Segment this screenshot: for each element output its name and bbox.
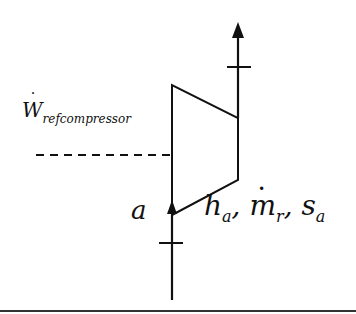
- inlet-arrow-icon: [167, 200, 177, 214]
- separator: ,: [232, 189, 241, 222]
- enthalpy-subscript: a: [222, 207, 232, 226]
- mass-flow-subscript: r: [276, 207, 284, 226]
- entropy-symbol: s: [301, 189, 315, 222]
- work-subscript: refcompressor: [43, 112, 131, 126]
- enthalpy-symbol: h: [204, 189, 222, 222]
- dot-accent: ˙: [29, 90, 37, 109]
- mass-flow-symbol: m: [249, 189, 276, 222]
- state-label: a: [131, 195, 147, 225]
- state-properties: ha, mr, sa: [204, 189, 325, 226]
- entropy-subscript: a: [316, 207, 326, 226]
- diagram-graphic: [0, 0, 356, 314]
- outlet-arrow-icon: [232, 22, 244, 38]
- separator: ,: [284, 189, 293, 222]
- work-label: ˙Wrefcompressor: [22, 98, 131, 126]
- compressor-diagram: ˙Wrefcompressor a ha, mr, sa: [0, 0, 356, 314]
